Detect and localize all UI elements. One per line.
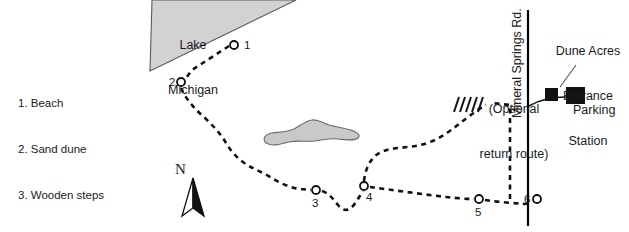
parking-label: Parking	[573, 103, 615, 118]
north-arrow-icon	[182, 178, 204, 216]
trail-path-steps-to-junction	[322, 191, 363, 210]
marker-circle-6[interactable]	[533, 195, 541, 203]
lake-label-line2: Michigan	[168, 83, 218, 98]
lake-label-line1: Lake	[168, 38, 218, 53]
marker-circle-3[interactable]	[312, 186, 320, 194]
north-letter: N	[175, 160, 186, 178]
legend-item-2: 2. Sand dune	[18, 142, 122, 157]
marker-label-4: 4	[366, 190, 372, 204]
trail-path-junction-east	[370, 187, 474, 199]
legend: 1. Beach 2. Sand dune 3. Wooden steps 4.…	[18, 66, 122, 232]
marker-circle-1[interactable]	[230, 41, 238, 49]
marker-circle-5[interactable]	[475, 195, 483, 203]
lake-michigan-label: Lake Michigan	[168, 8, 218, 128]
marker-circle-4[interactable]	[360, 182, 368, 190]
marker-label-3: 3	[312, 196, 318, 210]
marker-label-1: 1	[244, 38, 250, 52]
legend-item-3: 3. Wooden steps	[18, 188, 122, 203]
station-label-line1: Dune Acres	[549, 44, 627, 59]
optional-label-line2: return route)	[466, 147, 562, 162]
trail-map: 1. Beach 2. Sand dune 3. Wooden steps 4.…	[0, 0, 629, 232]
marker-label-2: 2	[169, 75, 175, 89]
marker-label-5: 5	[475, 205, 481, 219]
fen-polygon	[264, 120, 359, 145]
marker-label-6: 6	[524, 192, 530, 206]
mineral-springs-road-label: Mineral Springs Rd.	[510, 8, 525, 118]
legend-item-1: 1. Beach	[18, 96, 122, 111]
